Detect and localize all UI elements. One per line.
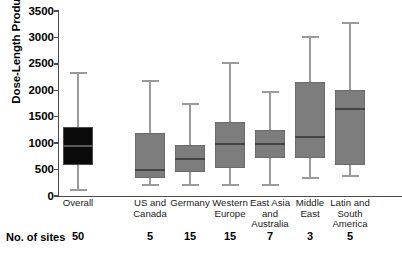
cap-upper (262, 91, 279, 92)
whisker-upper (269, 92, 270, 130)
whisker-upper (149, 81, 150, 133)
sites-row-label: No. of sites (6, 231, 65, 243)
site-count-4: 7 (250, 230, 290, 243)
whisker-upper (349, 23, 350, 90)
site-count-2: 15 (170, 230, 210, 243)
whisker-lower (229, 168, 230, 185)
whisker-upper (77, 73, 78, 127)
cap-lower (302, 177, 319, 178)
median-line (335, 108, 365, 110)
sites-row-values: 5051515735 (58, 230, 402, 246)
cap-lower (142, 184, 159, 185)
median-line (63, 145, 93, 147)
cap-upper (70, 72, 87, 73)
cap-lower (70, 189, 87, 190)
cap-upper (222, 62, 239, 63)
plot-area (58, 0, 402, 206)
category-label-6: Latin and South America (323, 198, 377, 230)
cap-lower (342, 175, 359, 176)
whisker-upper (229, 63, 230, 122)
whisker-lower (189, 172, 190, 185)
cap-lower (222, 184, 239, 185)
cap-lower (182, 184, 199, 185)
site-count-0: 50 (58, 230, 98, 243)
site-count-6: 5 (330, 230, 370, 243)
cap-lower (262, 184, 279, 185)
site-count-5: 3 (290, 230, 330, 243)
boxplot-latin-and-south-america[interactable] (320, 0, 380, 206)
whisker-upper (309, 37, 310, 82)
site-count-3: 15 (210, 230, 250, 243)
cap-upper (142, 80, 159, 81)
whisker-lower (269, 158, 270, 185)
whisker-lower (77, 165, 78, 190)
boxplot-overall[interactable] (48, 0, 108, 206)
cap-upper (302, 36, 319, 37)
site-count-1: 5 (130, 230, 170, 243)
cap-upper (182, 103, 199, 104)
whisker-lower (309, 158, 310, 178)
boxplot-figure: Dose-Length Product, mGy x cm 3500300025… (0, 0, 402, 253)
whisker-upper (189, 104, 190, 145)
cap-upper (342, 22, 359, 23)
box-iqr (335, 90, 365, 165)
category-label-0: Overall (51, 198, 105, 209)
